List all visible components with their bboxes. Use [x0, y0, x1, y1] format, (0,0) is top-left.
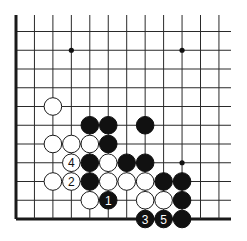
white-stone-circle	[63, 135, 81, 153]
black-stone-circle	[99, 135, 117, 153]
black-stone-circle	[99, 116, 117, 134]
white-stone-circle	[136, 191, 154, 209]
move-number-label: 4	[68, 156, 75, 170]
black-stone	[118, 154, 136, 172]
white-stone-circle	[136, 173, 154, 191]
black-stone-circle	[81, 154, 99, 172]
black-stone-circle	[136, 116, 154, 134]
black-stone-circle	[173, 173, 191, 191]
white-stone-circle	[118, 173, 136, 191]
move-number-label: 1	[105, 194, 112, 208]
white-stone	[155, 191, 173, 209]
white-stone-circle	[81, 191, 99, 209]
black-stone-circle	[118, 154, 136, 172]
black-stone: 1	[99, 191, 117, 209]
black-stone	[155, 173, 173, 191]
white-stone	[99, 173, 117, 191]
white-stone: 2	[63, 173, 81, 191]
black-stone	[173, 210, 191, 228]
go-board: 42135	[0, 0, 247, 241]
star-point	[179, 160, 184, 165]
black-stone-circle	[81, 173, 99, 191]
white-stone	[44, 135, 62, 153]
white-stone	[81, 191, 99, 209]
black-stone-circle	[173, 210, 191, 228]
black-stone: 5	[155, 210, 173, 228]
white-stone	[81, 135, 99, 153]
white-stone	[136, 191, 154, 209]
white-stone	[44, 98, 62, 116]
black-stone-circle	[155, 173, 173, 191]
white-stone: 4	[63, 154, 81, 172]
black-stone	[173, 191, 191, 209]
black-stone	[81, 116, 99, 134]
black-stone	[136, 116, 154, 134]
black-stone	[81, 154, 99, 172]
move-number-label: 3	[142, 213, 149, 227]
white-stone-circle	[155, 191, 173, 209]
white-stone-circle	[99, 173, 117, 191]
white-stone-circle	[99, 154, 117, 172]
white-stone-circle	[81, 135, 99, 153]
black-stone	[99, 135, 117, 153]
white-stone-circle	[44, 98, 62, 116]
black-stone	[173, 173, 191, 191]
star-point	[69, 48, 74, 53]
white-stone	[99, 154, 117, 172]
black-stone-circle	[81, 116, 99, 134]
black-stone	[81, 173, 99, 191]
white-stone-circle	[44, 173, 62, 191]
star-point	[179, 48, 184, 53]
black-stone-circle	[136, 154, 154, 172]
black-stone	[99, 116, 117, 134]
move-number-label: 5	[160, 213, 167, 227]
white-stone	[63, 135, 81, 153]
white-stone-circle	[44, 135, 62, 153]
white-stone	[118, 173, 136, 191]
move-number-label: 2	[68, 175, 75, 189]
black-stone-circle	[173, 191, 191, 209]
black-stone	[136, 154, 154, 172]
white-stone	[136, 173, 154, 191]
white-stone	[44, 173, 62, 191]
black-stone: 3	[136, 210, 154, 228]
